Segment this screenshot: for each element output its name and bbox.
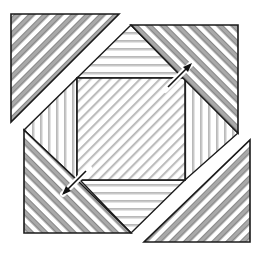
diagram-svg bbox=[0, 0, 264, 257]
center-square bbox=[77, 78, 185, 180]
pinwheel-diagram bbox=[0, 0, 264, 257]
